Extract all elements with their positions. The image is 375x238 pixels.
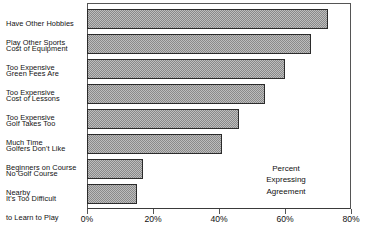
x-axis-tick-labels: 0%20%40%60%80% bbox=[0, 214, 375, 232]
chart-annotation: Percent Expressing Agreement bbox=[246, 163, 326, 197]
x-tick-label: 60% bbox=[265, 214, 305, 225]
x-tick-label: 20% bbox=[133, 214, 173, 225]
bar-no-golf-course-nearby bbox=[87, 159, 143, 179]
annotation-line-1: Percent bbox=[246, 163, 326, 174]
x-tick-label: 0% bbox=[67, 214, 107, 225]
annotation-line-2: Expressing bbox=[246, 174, 326, 185]
x-tick-label: 40% bbox=[199, 214, 239, 225]
bar-too-difficult-to-learn bbox=[87, 184, 137, 204]
bar-have-other-hobbies bbox=[87, 9, 328, 29]
category-label-line1: Have Other Hobbies bbox=[6, 19, 74, 28]
bar-golfers-dont-like-beginners bbox=[87, 134, 222, 154]
bar-cost-of-equipment bbox=[87, 34, 311, 54]
x-tick-label: 80% bbox=[331, 214, 371, 225]
category-label-line1: No Golf Course bbox=[6, 169, 58, 178]
bar-green-fees bbox=[87, 59, 285, 79]
bar-golf-takes-too-much-time bbox=[87, 109, 239, 129]
annotation-line-3: Agreement bbox=[246, 186, 326, 197]
category-label-line1: Golf Takes Too bbox=[6, 119, 55, 128]
category-label-line1: Golfers Don't Like bbox=[6, 144, 65, 153]
category-axis-labels: Have Other Hobbies Play Other Sports Cos… bbox=[0, 0, 86, 210]
category-label-line1: It's Too Difficult bbox=[6, 194, 56, 203]
category-label-line1: Cost of Equipment bbox=[6, 44, 68, 53]
bar-cost-of-lessons bbox=[87, 84, 265, 104]
category-label-line1: Green Fees Are bbox=[6, 69, 59, 78]
category-label-line1: Cost of Lessons bbox=[6, 94, 60, 103]
horizontal-bar-chart: Have Other Hobbies Play Other Sports Cos… bbox=[0, 0, 375, 238]
